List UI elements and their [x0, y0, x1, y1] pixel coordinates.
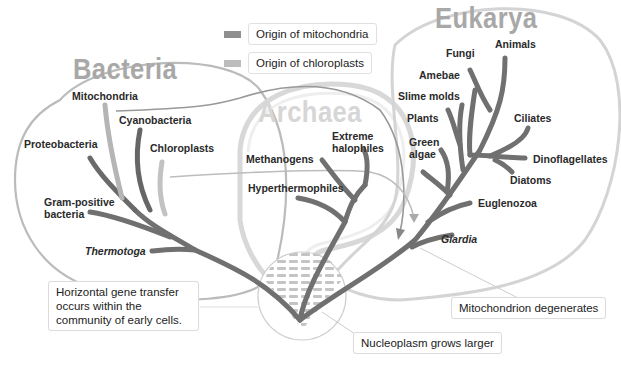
archaea-title: Archaea: [258, 96, 362, 129]
label-animals: Animals: [495, 38, 536, 50]
label-extreme-line2: halophiles: [332, 142, 384, 154]
label-amebae: Amebae: [419, 69, 460, 81]
callout-nucleoplasm-grows: Nucleoplasm grows larger: [353, 332, 502, 354]
label-extreme-halophiles: Extreme halophiles: [332, 130, 384, 154]
label-thermotoga: Thermotoga: [85, 245, 146, 257]
label-dinoflagellates: Dinoflagellates: [533, 153, 608, 165]
label-slime-molds: Slime molds: [398, 90, 460, 102]
mitochondria-swatch: [224, 31, 241, 38]
label-gram-positive-line1: Gram-positive: [44, 196, 115, 208]
label-mitochondria: Mitochondria: [72, 90, 138, 102]
callout-horizontal-gene-transfer: Horizontal gene transfer occurs within t…: [48, 281, 199, 331]
chloroplast-transfer-line: [170, 171, 414, 218]
label-euglenozoa: Euglenozoa: [478, 197, 537, 209]
label-gram-positive-line2: bacteria: [44, 208, 115, 220]
label-green-line2: algae: [409, 148, 439, 160]
label-methanogens: Methanogens: [246, 153, 314, 165]
legend-mitochondria-label: Origin of mitochondria: [248, 23, 377, 45]
label-proteobacteria: Proteobacteria: [24, 138, 98, 150]
bacteria-title: Bacteria: [73, 53, 177, 86]
label-chloroplasts: Chloroplasts: [150, 142, 214, 154]
label-fungi: Fungi: [446, 47, 475, 59]
mitochondria-arrowhead: [396, 228, 405, 240]
label-cyanobacteria: Cyanobacteria: [119, 114, 191, 126]
eukarya-title: Eukarya: [435, 2, 537, 35]
hgt-line1: Horizontal gene transfer: [56, 285, 191, 299]
label-hyperthermophiles: Hyperthermophiles: [248, 182, 344, 194]
hgt-line2: occurs within the: [56, 299, 191, 313]
legend-mitochondria: Origin of mitochondria: [224, 23, 377, 45]
callout-mitochondrion-degenerates: Mitochondrion degenerates: [451, 297, 606, 319]
label-diatoms: Diatoms: [510, 174, 551, 186]
chloroplast-arrowhead: [409, 214, 419, 223]
label-gram-positive: Gram-positive bacteria: [44, 196, 115, 220]
label-green-algae: Green algae: [409, 136, 439, 160]
hgt-line3: community of early cells.: [56, 313, 191, 327]
legend-chloroplasts: Origin of chloroplasts: [224, 52, 372, 74]
label-giardia: Giardia: [441, 233, 477, 245]
bacteria-region: [15, 63, 286, 300]
legend-chloroplasts-label: Origin of chloroplasts: [248, 52, 372, 74]
label-extreme-line1: Extreme: [332, 130, 384, 142]
label-green-line1: Green: [409, 136, 439, 148]
label-ciliates: Ciliates: [514, 112, 551, 124]
label-plants: Plants: [407, 112, 439, 124]
chloroplasts-swatch: [224, 60, 241, 67]
mito-degenerates-leader: [420, 248, 518, 298]
